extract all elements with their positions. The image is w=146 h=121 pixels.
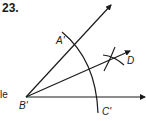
label-point-b: B' xyxy=(19,101,28,111)
label-point-d: D xyxy=(127,56,134,66)
arc-from-c xyxy=(103,55,124,65)
angle-bisector-diagram: 23. le A' D B' C' xyxy=(0,0,146,121)
label-point-a: A' xyxy=(56,36,65,46)
problem-number: 23. xyxy=(2,2,19,14)
ray-ba xyxy=(26,5,111,97)
label-point-c: C' xyxy=(102,107,111,117)
margin-text-fragment: le xyxy=(0,90,8,100)
